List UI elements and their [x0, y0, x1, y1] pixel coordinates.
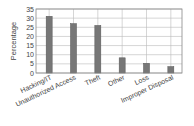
y-tick-label: 30 [26, 15, 34, 22]
bar-hacking-it [46, 16, 52, 73]
y-tick-label: 0 [30, 70, 34, 77]
bar-unauthorized-access [71, 24, 77, 73]
x-axis-labels: Hacking/ITUnauthorized AccessTheftOtherL… [14, 73, 175, 107]
x-tick-label: Theft [84, 74, 101, 87]
bar-theft [95, 25, 101, 73]
y-axis-label: Percentage [9, 22, 18, 60]
grid-lines [36, 9, 182, 73]
bar-other [119, 58, 125, 73]
y-tick-label: 5 [30, 60, 34, 67]
x-tick-label: Other [107, 73, 126, 87]
y-tick-label: 20 [26, 33, 34, 40]
bar-chart: 05101520253035 Percentage Hacking/ITUnau… [0, 0, 194, 126]
plot-frame [36, 9, 182, 73]
bar-improper-disposal [168, 67, 174, 73]
y-tick-label: 15 [26, 42, 34, 49]
y-axis-ticks: 05101520253035 [26, 6, 34, 77]
y-tick-label: 10 [26, 51, 34, 58]
bars [46, 16, 174, 73]
y-tick-label: 25 [26, 24, 34, 31]
bar-loss [144, 63, 150, 73]
y-tick-label: 35 [26, 6, 34, 13]
